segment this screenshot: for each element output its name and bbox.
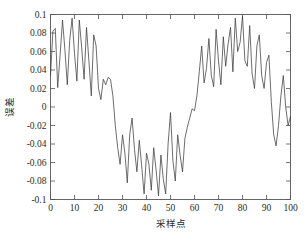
y-tick-label: 0.08: [30, 28, 47, 38]
chart-figure: 0102030405060708090100-0.1-0.08-0.06-0.0…: [0, 0, 307, 244]
x-axis-title: 采样点: [156, 218, 186, 229]
x-tick-label: 50: [166, 203, 176, 213]
y-tick-label: 0.1: [35, 10, 47, 20]
y-tick-label: -0.1: [31, 195, 46, 205]
x-tick-label: 70: [214, 203, 224, 213]
x-tick-label: 60: [190, 203, 200, 213]
x-tick-label: 80: [238, 203, 248, 213]
y-tick-label: 0.04: [30, 65, 47, 75]
y-tick-label: 0.06: [30, 47, 47, 57]
x-tick-label: 30: [118, 203, 128, 213]
x-tick-label: 100: [283, 203, 298, 213]
y-tick-label: -0.08: [27, 176, 47, 186]
x-tick-label: 20: [94, 203, 104, 213]
x-tick-label: 90: [262, 203, 272, 213]
y-tick-label: -0.02: [27, 121, 47, 131]
y-axis-title: 误差: [4, 97, 15, 117]
x-tick-label: 0: [48, 203, 53, 213]
y-tick-label: 0: [42, 102, 47, 112]
y-tick-label: 0.02: [30, 84, 47, 94]
y-tick-label: -0.06: [27, 158, 47, 168]
error-line-chart: 0102030405060708090100-0.1-0.08-0.06-0.0…: [0, 0, 307, 244]
x-tick-label: 10: [70, 203, 80, 213]
x-tick-label: 40: [142, 203, 152, 213]
y-tick-label: -0.04: [27, 139, 47, 149]
